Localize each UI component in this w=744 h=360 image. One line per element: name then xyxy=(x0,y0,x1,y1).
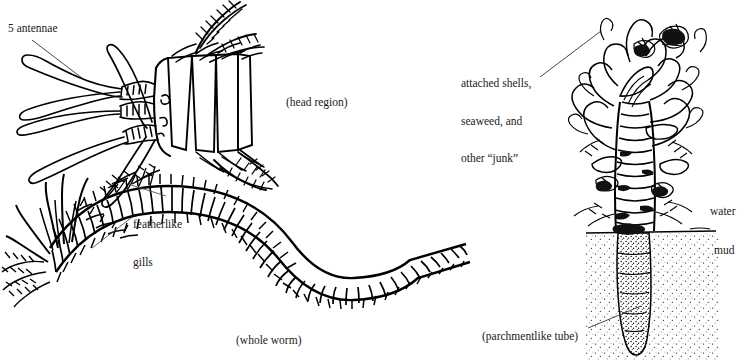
caption-whole-worm: (whole worm) xyxy=(236,334,301,346)
mud-surface-tick xyxy=(690,228,710,229)
attached-debris xyxy=(568,18,706,235)
leader-line-junk xyxy=(540,31,601,77)
tube-habitat-drawing xyxy=(568,18,718,360)
label-water: water xyxy=(710,205,736,218)
label-mud: mud xyxy=(714,244,734,257)
head-segment-block xyxy=(154,54,252,156)
mud-field xyxy=(586,233,718,360)
caption-parchment-tube: (parchmentlike tube) xyxy=(482,330,578,342)
label-junk-line2: seaweed, and xyxy=(461,115,531,128)
label-junk-line1: attached shells, xyxy=(461,77,531,90)
label-junk-line3: other “junk” xyxy=(461,152,531,165)
label-gills-line1: featherlike xyxy=(133,218,182,231)
label-antennae: 5 antennae xyxy=(8,22,58,35)
illustration-figure: 5 antennae featherlike gills attached sh… xyxy=(0,0,744,360)
whole-worm-drawing xyxy=(2,164,470,309)
tube-above-mud xyxy=(615,101,655,232)
label-attached-junk: attached shells, seaweed, and other “jun… xyxy=(461,52,531,177)
head-gills-upper xyxy=(172,1,264,62)
illustration-canvas xyxy=(0,0,744,360)
mud-surface-line xyxy=(586,231,716,233)
label-gills-line2: gills xyxy=(133,256,182,269)
head-gills-lower xyxy=(196,150,278,190)
label-featherlike-gills: featherlike gills xyxy=(133,193,182,281)
caption-head-region: (head region) xyxy=(286,96,348,108)
